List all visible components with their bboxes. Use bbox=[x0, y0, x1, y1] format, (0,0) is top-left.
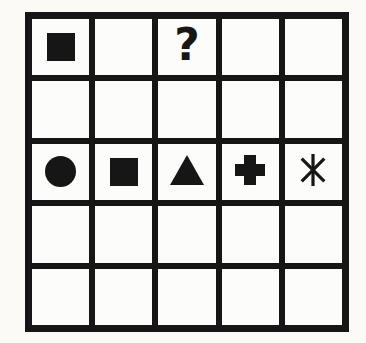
filled-circle-icon bbox=[45, 156, 76, 187]
question-mark-icon: ? bbox=[174, 23, 200, 67]
grid-cell-r2c2 bbox=[95, 81, 152, 137]
grid-cell-r4c4 bbox=[222, 206, 279, 262]
grid-cell-r4c5 bbox=[285, 206, 342, 262]
grid-cell-r5c4 bbox=[222, 269, 279, 325]
filled-triangle-icon bbox=[170, 155, 204, 189]
grid-cell-r4c3 bbox=[158, 206, 215, 262]
bold-plus-icon bbox=[235, 155, 265, 189]
grid-cell-r5c5 bbox=[285, 269, 342, 325]
grid-cell-r2c3 bbox=[158, 81, 215, 137]
grid-cell-r3c4 bbox=[222, 144, 279, 200]
grid-cell-r1c5 bbox=[285, 19, 342, 75]
grid-cell-r3c3 bbox=[158, 144, 215, 200]
grid-cell-r2c5 bbox=[285, 81, 342, 137]
asterisk-icon bbox=[296, 153, 330, 191]
grid-cell-r1c3: ? bbox=[158, 19, 215, 75]
grid-cell-r2c1 bbox=[32, 81, 89, 137]
grid-cell-r2c4 bbox=[222, 81, 279, 137]
puzzle-grid: ? bbox=[25, 12, 349, 332]
grid-cell-r5c1 bbox=[32, 269, 89, 325]
grid-cell-r4c2 bbox=[95, 206, 152, 262]
grid-cell-r1c2 bbox=[95, 19, 152, 75]
filled-square-icon bbox=[110, 158, 138, 186]
filled-square-icon bbox=[47, 33, 75, 61]
grid-cell-r1c1 bbox=[32, 19, 89, 75]
grid-cell-r5c3 bbox=[158, 269, 215, 325]
grid-cell-r3c5 bbox=[285, 144, 342, 200]
grid-cell-r5c2 bbox=[95, 269, 152, 325]
grid-cell-r3c1 bbox=[32, 144, 89, 200]
grid-cell-r3c2 bbox=[95, 144, 152, 200]
grid-cell-r4c1 bbox=[32, 206, 89, 262]
grid-cell-r1c4 bbox=[222, 19, 279, 75]
